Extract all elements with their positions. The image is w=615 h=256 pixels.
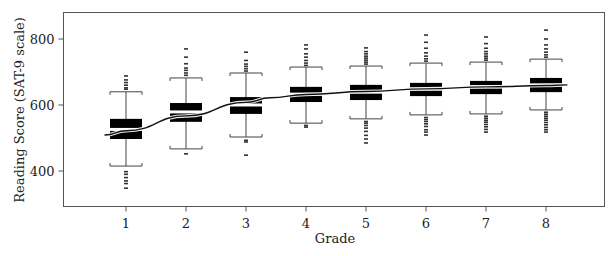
outlier-mark bbox=[544, 56, 548, 58]
outlier-mark bbox=[124, 180, 128, 182]
outlier-mark bbox=[244, 70, 248, 72]
outlier-mark bbox=[424, 58, 428, 60]
outlier-mark bbox=[544, 111, 548, 113]
outlier-mark bbox=[424, 131, 428, 133]
outlier-mark bbox=[544, 54, 548, 56]
outlier-mark bbox=[184, 72, 188, 74]
outlier-mark bbox=[184, 67, 188, 69]
outlier-mark bbox=[364, 63, 368, 65]
outlier-mark bbox=[484, 119, 488, 121]
outlier-mark bbox=[484, 124, 488, 126]
outlier-mark bbox=[484, 59, 488, 61]
outlier-mark bbox=[484, 117, 488, 119]
outlier-mark bbox=[484, 57, 488, 59]
boxplot-chart: 400600800 12345678 Reading Score (SAT-9 … bbox=[0, 0, 615, 256]
outlier-mark bbox=[304, 56, 308, 58]
outlier-mark bbox=[124, 187, 128, 189]
outlier-mark bbox=[544, 119, 548, 121]
outlier-mark bbox=[364, 55, 368, 57]
outlier-mark bbox=[364, 142, 368, 144]
outlier-mark bbox=[184, 48, 188, 50]
outlier-mark bbox=[364, 125, 368, 127]
y-axis: 400600800 bbox=[30, 32, 64, 179]
outlier-mark bbox=[544, 131, 548, 133]
outlier-mark bbox=[544, 127, 548, 129]
outlier-mark bbox=[544, 48, 548, 50]
box-grade-7 bbox=[470, 36, 502, 133]
y-tick-label: 400 bbox=[30, 164, 55, 179]
outlier-mark bbox=[544, 122, 548, 124]
outlier-mark bbox=[364, 61, 368, 63]
outlier-mark bbox=[124, 84, 128, 86]
outlier-mark bbox=[484, 47, 488, 49]
x-tick-label: 8 bbox=[542, 216, 550, 231]
outlier-mark bbox=[424, 117, 428, 119]
outlier-mark bbox=[424, 126, 428, 128]
outlier-mark bbox=[424, 123, 428, 125]
outlier-mark bbox=[124, 82, 128, 84]
outlier-mark bbox=[244, 141, 248, 143]
outlier-mark bbox=[124, 183, 128, 185]
outlier-mark bbox=[484, 43, 488, 45]
outlier-mark bbox=[424, 47, 428, 49]
x-axis: 12345678 bbox=[122, 207, 550, 231]
outlier-mark bbox=[424, 129, 428, 131]
boxes bbox=[110, 29, 562, 189]
outlier-mark bbox=[544, 113, 548, 115]
outlier-mark bbox=[424, 42, 428, 44]
outlier-mark bbox=[124, 174, 128, 176]
outlier-mark bbox=[364, 59, 368, 61]
outlier-mark bbox=[244, 154, 248, 156]
outlier-mark bbox=[184, 63, 188, 65]
outlier-mark bbox=[484, 55, 488, 57]
y-tick-label: 600 bbox=[30, 98, 55, 113]
outlier-mark bbox=[304, 44, 308, 46]
outlier-mark bbox=[364, 131, 368, 133]
outlier-mark bbox=[424, 34, 428, 36]
outlier-mark bbox=[484, 53, 488, 55]
median-line bbox=[170, 110, 202, 113]
outlier-mark bbox=[364, 121, 368, 123]
outlier-mark bbox=[364, 53, 368, 55]
outlier-mark bbox=[484, 115, 488, 117]
outlier-mark bbox=[244, 68, 248, 70]
outlier-mark bbox=[304, 65, 308, 67]
x-tick-label: 5 bbox=[362, 216, 370, 231]
x-tick-label: 4 bbox=[302, 216, 310, 231]
outlier-mark bbox=[364, 57, 368, 59]
x-axis-title: Grade bbox=[315, 231, 356, 246]
outlier-mark bbox=[304, 48, 308, 50]
outlier-mark bbox=[544, 117, 548, 119]
x-tick-label: 1 bbox=[122, 216, 130, 231]
outlier-mark bbox=[304, 62, 308, 64]
outlier-mark bbox=[424, 119, 428, 121]
outlier-mark bbox=[364, 138, 368, 140]
outlier-mark bbox=[304, 125, 308, 127]
outlier-mark bbox=[544, 129, 548, 131]
x-tick-label: 7 bbox=[482, 216, 490, 231]
outlier-mark bbox=[304, 126, 308, 128]
box-grade-4 bbox=[290, 44, 322, 128]
outlier-mark bbox=[484, 131, 488, 133]
outlier-mark bbox=[364, 51, 368, 53]
outlier-mark bbox=[424, 52, 428, 54]
outlier-mark bbox=[304, 60, 308, 62]
plot-frame bbox=[64, 13, 605, 207]
box-grade-8 bbox=[530, 29, 562, 133]
y-tick-label: 800 bbox=[30, 32, 55, 47]
outlier-mark bbox=[304, 53, 308, 55]
outlier-mark bbox=[184, 56, 188, 58]
x-tick-label: 2 bbox=[182, 216, 190, 231]
outlier-mark bbox=[424, 55, 428, 57]
outlier-mark bbox=[184, 75, 188, 77]
outlier-mark bbox=[484, 129, 488, 131]
outlier-mark bbox=[244, 63, 248, 65]
outlier-mark bbox=[484, 51, 488, 53]
outlier-mark bbox=[544, 38, 548, 40]
outlier-mark bbox=[544, 115, 548, 117]
box-grade-5 bbox=[350, 47, 382, 144]
x-tick-label: 6 bbox=[422, 216, 430, 231]
outlier-mark bbox=[424, 134, 428, 136]
outlier-mark bbox=[364, 47, 368, 49]
outlier-mark bbox=[244, 51, 248, 53]
